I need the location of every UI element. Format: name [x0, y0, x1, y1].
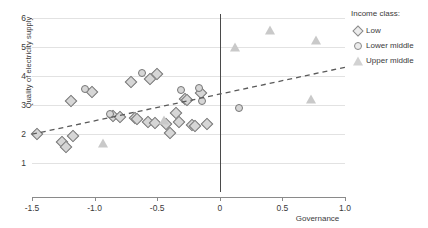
data-point-circle: [106, 110, 114, 118]
data-point-circle: [198, 97, 206, 105]
y-tick-label: 1: [4, 158, 26, 168]
circle-icon: [351, 39, 364, 52]
gridline: [32, 47, 345, 48]
data-point-circle: [235, 104, 243, 112]
y-tick-label: 3: [4, 100, 26, 110]
y-tick-label: 4: [4, 71, 26, 81]
x-tick-mark: [157, 197, 158, 201]
x-axis-title: Governance: [296, 214, 340, 223]
data-point-triangle: [98, 138, 108, 147]
data-point-circle: [177, 86, 185, 94]
x-tick-mark: [345, 197, 346, 201]
x-tick-mark: [220, 197, 221, 201]
x-tick-label: -1.5: [25, 203, 40, 213]
data-point-triangle: [159, 115, 169, 124]
data-point-triangle: [230, 43, 240, 52]
gridline: [32, 76, 345, 77]
y-tick-label: 5: [4, 42, 26, 52]
data-point-triangle: [265, 26, 275, 35]
x-tick-label: 0: [217, 203, 222, 213]
x-tick-label: 0.5: [276, 203, 288, 213]
gridline: [32, 134, 345, 135]
legend-entry-triangle[interactable]: Upper middle: [351, 53, 428, 68]
x-tick-label: -0.5: [150, 203, 165, 213]
data-point-diamond: [64, 95, 77, 108]
triangle-icon: [351, 54, 364, 67]
x-tick-label: 1.0: [339, 203, 351, 213]
data-point-circle: [195, 84, 203, 92]
gridline: [32, 105, 345, 106]
data-point-diamond: [67, 130, 80, 143]
data-point-diamond: [201, 117, 214, 130]
legend-label: Lower middle: [366, 41, 414, 50]
data-point-triangle: [311, 35, 321, 44]
data-point-diamond: [125, 75, 138, 88]
gridline: [32, 18, 345, 19]
x-tick-mark: [282, 197, 283, 201]
y-tick-label: 6: [4, 13, 26, 23]
gridline: [32, 163, 345, 164]
zero-axis-line: [220, 14, 221, 192]
scatter-chart: Quality of electricity supply 123456 -1.…: [0, 0, 428, 228]
legend: Income class: LowLower middleUpper middl…: [351, 9, 428, 68]
x-axis-tick-labels: -1.5-1.0-0.500.51.0: [0, 203, 428, 217]
legend-entry-diamond[interactable]: Low: [351, 23, 428, 38]
x-tick-mark: [32, 197, 33, 201]
diamond-icon: [351, 24, 364, 37]
plot-area: [32, 14, 345, 174]
data-point-diamond: [31, 127, 44, 140]
data-point-circle: [81, 85, 89, 93]
x-tick-mark: [95, 197, 96, 201]
legend-label: Low: [366, 26, 381, 35]
x-tick-label: -1.0: [87, 203, 102, 213]
legend-entries: LowLower middleUpper middle: [351, 23, 428, 68]
legend-title: Income class:: [351, 9, 428, 18]
y-axis-tick-labels: 123456: [0, 14, 26, 174]
data-point-circle: [138, 69, 146, 77]
legend-entry-circle[interactable]: Lower middle: [351, 38, 428, 53]
data-point-triangle: [306, 95, 316, 104]
y-tick-label: 2: [4, 129, 26, 139]
x-axis-line: [32, 197, 345, 198]
legend-label: Upper middle: [366, 56, 414, 65]
